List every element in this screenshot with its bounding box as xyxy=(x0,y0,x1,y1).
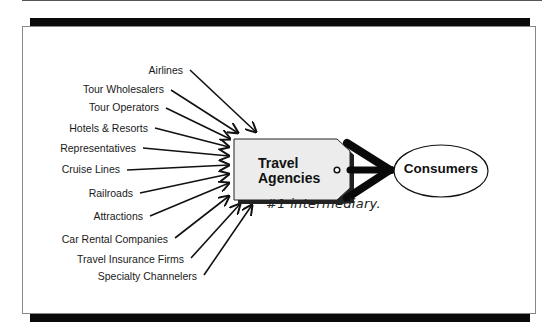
tag-connector xyxy=(347,143,390,198)
consumers-label: Consumers xyxy=(393,161,489,176)
supplier-label-airlines: Airlines xyxy=(149,64,183,76)
intermediary-label-line1: Travel xyxy=(258,156,320,171)
supplier-label-specialty-channelers: Specialty Channelers xyxy=(98,270,197,282)
supplier-label-hotels-resorts: Hotels & Resorts xyxy=(69,122,148,134)
intermediary-label: Travel Agencies xyxy=(258,156,320,186)
tag-hole-icon xyxy=(334,167,340,173)
supplier-label-railroads: Railroads xyxy=(89,187,133,199)
supplier-label-cruise-lines: Cruise Lines xyxy=(62,163,120,175)
supplier-label-representatives: Representatives xyxy=(60,142,136,154)
supplier-label-travel-insurance-firms: Travel Insurance Firms xyxy=(77,253,184,265)
supplier-label-tour-operators: Tour Operators xyxy=(89,101,159,113)
supplier-label-car-rental-companies: Car Rental Companies xyxy=(62,233,168,245)
supplier-label-tour-wholesalers: Tour Wholesalers xyxy=(83,83,164,95)
handwritten-annotation: #1 intermediary. xyxy=(266,196,381,211)
supplier-label-attractions: Attractions xyxy=(93,210,143,222)
intermediary-label-line2: Agencies xyxy=(258,171,320,186)
